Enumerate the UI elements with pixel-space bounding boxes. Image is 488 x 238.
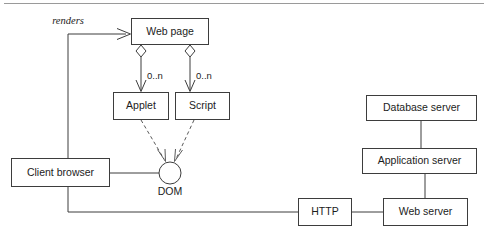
database-server-label: Database server <box>383 101 461 113</box>
node-web-page[interactable]: Web page <box>132 19 209 45</box>
architecture-diagram: Web page Applet Script Client browser DO… <box>0 0 488 238</box>
aggregation-webpage-script <box>185 45 195 92</box>
node-client-browser[interactable]: Client browser <box>12 159 110 187</box>
dependency-applet-dom <box>141 120 166 162</box>
node-applet[interactable]: Applet <box>114 93 169 120</box>
node-dom[interactable]: DOM <box>158 162 183 197</box>
node-database-server[interactable]: Database server <box>367 96 477 121</box>
renders-edge-label: renders <box>52 15 84 26</box>
node-application-server[interactable]: Application server <box>363 149 477 174</box>
applet-label: Applet <box>126 99 156 111</box>
application-server-label: Application server <box>378 154 462 166</box>
node-http[interactable]: HTTP <box>299 199 352 226</box>
dom-circle[interactable] <box>159 162 181 184</box>
dom-label: DOM <box>158 185 183 197</box>
web-server-label: Web server <box>399 205 453 217</box>
diagram-canvas: Web page Applet Script Client browser DO… <box>0 0 488 238</box>
http-label: HTTP <box>311 205 338 217</box>
link-clientbrowser-http <box>68 187 298 212</box>
script-multiplicity-label: 0..n <box>196 70 212 81</box>
aggregation-webpage-applet <box>136 45 146 92</box>
script-label: Script <box>189 99 216 111</box>
node-web-server[interactable]: Web server <box>384 199 468 226</box>
web-page-label: Web page <box>146 25 194 37</box>
applet-multiplicity-label: 0..n <box>147 70 163 81</box>
dependency-script-dom <box>175 120 195 162</box>
client-browser-label: Client browser <box>27 166 95 178</box>
node-script[interactable]: Script <box>176 93 230 120</box>
